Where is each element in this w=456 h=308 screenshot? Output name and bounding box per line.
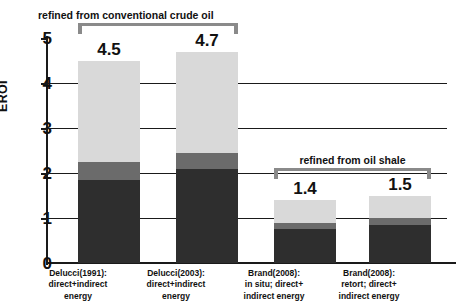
- bar-segment-dark-0: [78, 180, 140, 263]
- category-label-3-line-2: indirect energy: [311, 291, 427, 302]
- bracket-label-conventional-crude: refined from conventional crude oil: [38, 9, 253, 22]
- bracket-cap-left-conventional-crude: [78, 23, 82, 34]
- plot-area: 4.5 4.7 1.4 1.5 refined from: [47, 38, 447, 263]
- category-label-3: Brand(2008): retort; direct+ indirect en…: [311, 268, 427, 302]
- bar-value-1: 4.7: [195, 32, 219, 49]
- tick-1: [41, 218, 47, 220]
- bar-delucci-1991[interactable]: 4.5: [78, 61, 140, 264]
- bar-segment-mid-0: [78, 162, 140, 180]
- bar-segment-mid-3: [369, 218, 431, 225]
- bracket-label-oil-shale: refined from oil shale: [299, 154, 405, 167]
- bracket-bar-oil-shale: [274, 168, 431, 171]
- bar-segment-light-1: [176, 52, 238, 153]
- bar-brand-2008-retort[interactable]: 1.5: [369, 196, 431, 264]
- bar-brand-2008-in-situ[interactable]: 1.4: [274, 200, 336, 263]
- bar-segment-mid-1: [176, 153, 238, 169]
- bar-value-3: 1.5: [388, 176, 412, 193]
- bracket-cap-right-oil-shale: [427, 168, 431, 179]
- bracket-cap-left-oil-shale: [274, 168, 278, 179]
- tick-4: [41, 83, 47, 85]
- bar-segment-mid-2: [274, 223, 336, 230]
- tick-5: [41, 38, 47, 40]
- bracket-bar-conventional-crude: [78, 23, 238, 26]
- bar-segment-dark-2: [274, 229, 336, 263]
- y-axis-title: EROI: [0, 80, 10, 112]
- bracket-cap-right-conventional-crude: [234, 23, 238, 34]
- bar-value-0: 4.5: [97, 41, 121, 58]
- bar-segment-light-2: [274, 200, 336, 223]
- bar-segment-dark-3: [369, 225, 431, 263]
- bar-value-2: 1.4: [293, 180, 317, 197]
- tick-3: [41, 128, 47, 130]
- bar-segment-light-0: [78, 61, 140, 162]
- eroi-bar-chart: EROI 5 4 3 2 1 0 4.5 4.7: [0, 0, 456, 308]
- bar-delucci-2003[interactable]: 4.7: [176, 52, 238, 264]
- bar-segment-light-3: [369, 196, 431, 219]
- tick-2: [41, 173, 47, 175]
- bar-segment-dark-1: [176, 169, 238, 264]
- category-label-3-line-1: retort; direct+: [311, 279, 427, 290]
- category-label-3-line-0: Brand(2008):: [311, 268, 427, 279]
